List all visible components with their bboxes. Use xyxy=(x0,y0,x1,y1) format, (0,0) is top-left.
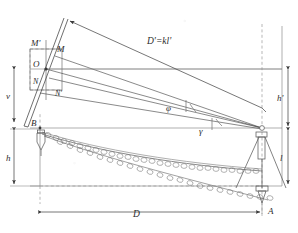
label-D: D xyxy=(132,209,140,219)
label-h-prime: h' xyxy=(277,93,285,103)
dimension-D xyxy=(42,203,262,216)
label-N-prime: N' xyxy=(54,89,62,98)
catenary-upper-beads xyxy=(44,132,259,174)
label-A: A xyxy=(267,206,274,216)
catenary-upper xyxy=(42,132,262,174)
tower-column-A xyxy=(258,137,265,159)
staff-foot xyxy=(24,126,28,127)
dimension-tick-D-prime xyxy=(262,108,266,112)
label-B: B xyxy=(31,118,37,128)
ray-O-to-A xyxy=(46,69,262,128)
label-l: l xyxy=(280,153,283,163)
label-v: v xyxy=(6,91,10,101)
arc-phi xyxy=(190,104,196,112)
label-gamma: γ xyxy=(199,126,203,136)
tower-leg-left xyxy=(236,137,259,188)
label-M: M xyxy=(56,44,65,54)
ray-Nprime-to-A xyxy=(40,93,262,129)
label-phi: φ xyxy=(166,103,171,113)
label-O: O xyxy=(33,59,40,69)
instrument-at-B xyxy=(37,130,45,156)
label-M-prime: M' xyxy=(30,38,41,48)
angle-arcs xyxy=(186,100,222,130)
label-N: N xyxy=(32,77,39,86)
ray-M-to-A xyxy=(55,56,262,128)
dot-O xyxy=(44,67,47,70)
dimension-D-prime xyxy=(70,21,266,112)
tower-head-A xyxy=(256,132,267,137)
dot-B xyxy=(39,127,42,130)
tower-at-A xyxy=(236,126,286,203)
tower-leg-right xyxy=(265,137,286,188)
label-D-prime: D'=kl' xyxy=(146,36,172,46)
dimension-h xyxy=(10,129,40,186)
catenary-upper-core xyxy=(42,134,262,171)
ray-N-to-A xyxy=(49,78,262,128)
construction-frame xyxy=(30,26,282,186)
diagram-canvas: M' M O N N' B A v h h' l D D'=kl' φ γ xyxy=(0,0,298,233)
label-h: h xyxy=(6,153,11,163)
sight-rays xyxy=(40,56,282,129)
dashed-construction xyxy=(30,24,262,214)
catenary-lower-beads xyxy=(56,139,273,201)
target-point-A xyxy=(260,126,265,131)
instrument-body-B xyxy=(37,133,45,150)
